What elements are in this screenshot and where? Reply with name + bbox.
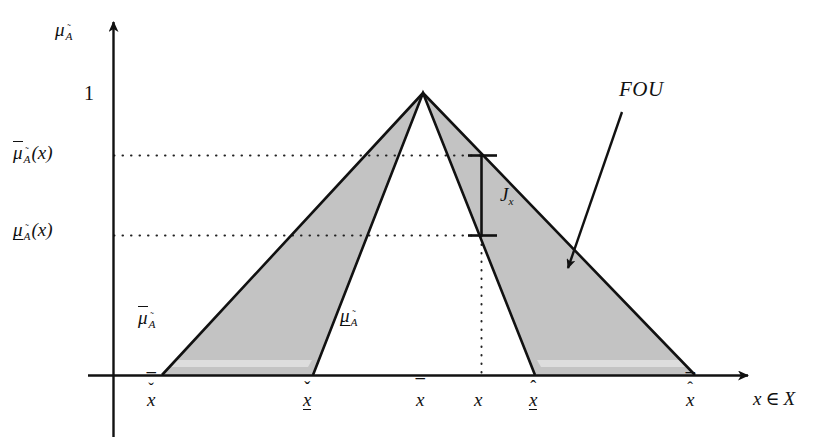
y-tick-lower-mu: μ˜A(x) (13, 220, 53, 240)
upper-mu-arg: (x) (32, 142, 53, 163)
lmf-label-sub: ˜A (351, 317, 358, 328)
accent-stack: ˇ x (303, 390, 311, 410)
scan-band-left (168, 360, 312, 367)
x-axis-set: X (784, 388, 796, 409)
x-tick-x-plain: x (474, 390, 482, 409)
scan-band-right (537, 360, 688, 367)
x-tick-x-caron-underline: ˇ x (303, 390, 311, 410)
umf-label-base: μ (138, 306, 148, 327)
lmf-label-base: μ (340, 306, 350, 326)
jx-sub: x (508, 195, 513, 207)
umf-label-sub: ˜A (149, 319, 156, 330)
x-tick-x-overline: ̅ x (416, 390, 424, 409)
accent-stack: ̅ ˆ x (686, 390, 694, 409)
y-tick-one: 1 (84, 83, 94, 103)
lmf-curve-label: μ˜A (340, 306, 358, 326)
accent-stack: ̅ ˇ x (147, 390, 155, 409)
figure-canvas: μ˜A 1 μ˜A(x) μ˜A(x) μ˜A μ˜A Jx FOU (0, 0, 837, 437)
element-of-icon: ∈ (765, 388, 779, 409)
lower-mu-sub: ˜A (24, 231, 31, 242)
x-axis-label: x∈X (753, 389, 795, 408)
accent-stack: ˆ x (529, 390, 537, 410)
accent-stack: ̅ x (416, 390, 424, 409)
y-tick-upper-mu: μ˜A(x) (13, 141, 53, 162)
y-axis-label: μ˜A (55, 20, 73, 39)
x-tick-x-hat-underline: ˆ x (529, 390, 537, 410)
lower-mu-base: μ (13, 220, 23, 240)
upper-mu-base: μ (13, 141, 23, 162)
y-axis-label-sub: ˜A (66, 31, 73, 42)
x-tick-x-overline-hat: ̅ ˆ x (686, 390, 694, 409)
upper-mu-sub: ˜A (24, 154, 31, 165)
umf-curve-label: μ˜A (138, 306, 156, 327)
y-axis-label-base: μ (55, 19, 65, 40)
lower-mu-arg: (x) (32, 219, 53, 240)
x-axis-var: x (753, 388, 761, 409)
fou-leader-arrow (568, 112, 622, 268)
jx-label: Jx (500, 185, 514, 204)
fou-label: FOU (619, 79, 664, 100)
fuzzy-set-plot (0, 0, 837, 437)
x-tick-x-overline-caron: ̅ ˇ x (147, 390, 155, 409)
